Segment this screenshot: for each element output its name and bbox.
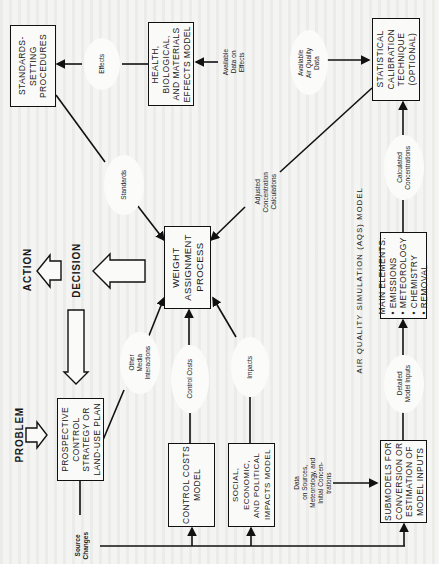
prospective-control-label: PROSPECTIVE CONTROL STRATEGY OR LAND-USE… bbox=[60, 403, 102, 476]
main-element-item: • CHEMISTRY bbox=[409, 237, 420, 314]
main-element-item: • METEOROLOGY bbox=[398, 237, 409, 314]
impacts-label: Impacts bbox=[246, 356, 254, 379]
action-label-box: ACTION bbox=[18, 245, 36, 295]
main-elements-heading: MAIN ELEMENTS: bbox=[377, 237, 388, 314]
available-data-effects-label-box: Available Data on Effects bbox=[214, 35, 254, 90]
data-on-sources-label: Data on Sources, Meteorology, and Initia… bbox=[293, 458, 333, 508]
calculated-concentrations-bubble: Calculated Concentrations bbox=[384, 135, 424, 200]
diagram-title-box: AIR QUALITY SIMULATION (AQS) MODEL bbox=[350, 180, 368, 380]
available-air-quality-label: Available Air Quality Data bbox=[297, 48, 321, 78]
control-costs-bubble: Control Costs bbox=[171, 345, 209, 413]
other-media-label: Other Media Interactions bbox=[128, 346, 152, 380]
standards-label: Standards bbox=[120, 170, 128, 200]
problem-label: PROBLEM bbox=[14, 407, 25, 463]
control-costs-box: CONTROL COSTS MODEL bbox=[168, 443, 215, 527]
main-element-item: • EMISSIONS bbox=[388, 237, 399, 314]
standards-bubble: Standards bbox=[104, 155, 144, 215]
impacts-bubble: Impacts bbox=[231, 337, 269, 397]
action-label: ACTION bbox=[22, 248, 33, 291]
detailed-model-inputs-bubble: Detailed Model Inputs bbox=[384, 355, 424, 413]
effects-label: Effects bbox=[98, 54, 106, 74]
standards-setting-box: STANDARDS- SETTING PROCEDURES bbox=[10, 25, 56, 107]
adjusted-concentration-label-box: Adjusted Concentration Calculations bbox=[246, 165, 286, 220]
other-media-bubble: Other Media Interactions bbox=[120, 332, 160, 394]
calculated-concentrations-label: Calculated Concentrations bbox=[396, 146, 412, 190]
adjusted-concentration-label: Adjusted Concentration Calculations bbox=[254, 172, 278, 212]
statistical-calibration-box: STATISTICAL CALIBRATION TECHNIQUE (Optio… bbox=[372, 18, 420, 101]
main-element-item: • REMOVAL bbox=[419, 237, 430, 314]
detailed-model-inputs-label: Detailed Model Inputs bbox=[396, 365, 412, 402]
social-impacts-label: SOCIAL, ECONOMIC, AND POLITICAL IMPACTS … bbox=[231, 444, 273, 526]
weight-assignment-label: WEIGHT ASSIGNMENT PROCESS bbox=[170, 234, 206, 301]
effects-bubble: Effects bbox=[84, 38, 120, 90]
main-elements-box: MAIN ELEMENTS: • EMISSIONS • METEOROLOGY… bbox=[380, 232, 427, 319]
data-on-sources-label-box: Data on Sources, Meteorology, and Initia… bbox=[290, 450, 335, 515]
main-elements-content: MAIN ELEMENTS: • EMISSIONS • METEOROLOGY… bbox=[377, 237, 430, 314]
social-impacts-box: SOCIAL, ECONOMIC, AND POLITICAL IMPACTS … bbox=[228, 443, 275, 527]
source-changes-label: Source Changes bbox=[74, 532, 90, 559]
diagram-title: AIR QUALITY SIMULATION (AQS) MODEL bbox=[355, 187, 364, 373]
available-air-quality-bubble: Available Air Quality Data bbox=[290, 30, 328, 95]
submodels-label: SUBMODELS FOR CONVERSION OR ESTIMATION O… bbox=[383, 442, 425, 521]
source-changes-label-box: Source Changes bbox=[70, 530, 94, 562]
weight-assignment-box: WEIGHT ASSIGNMENT PROCESS bbox=[164, 226, 211, 309]
statistical-calibration-label: STATISTICAL CALIBRATION TECHNIQUE (Optio… bbox=[375, 29, 417, 89]
health-effects-label: HEALTH, BIOLOGICAL, AND MATERIALS EFFECT… bbox=[150, 26, 192, 103]
control-costs-label: CONTROL COSTS MODEL bbox=[181, 446, 202, 524]
problem-label-box: PROBLEM bbox=[10, 400, 28, 470]
submodels-box: SUBMODELS FOR CONVERSION OR ESTIMATION O… bbox=[380, 440, 427, 523]
control-costs-flow-label: Control Costs bbox=[186, 359, 194, 398]
prospective-control-box: PROSPECTIVE CONTROL STRATEGY OR LAND-USE… bbox=[57, 398, 104, 481]
health-effects-box: HEALTH, BIOLOGICAL, AND MATERIALS EFFECT… bbox=[148, 22, 194, 106]
available-data-effects-label: Available Data on Effects bbox=[222, 49, 246, 75]
standards-setting-label: STANDARDS- SETTING PROCEDURES bbox=[17, 34, 49, 98]
decision-label: DECISION bbox=[71, 243, 82, 298]
decision-label-box: DECISION bbox=[67, 240, 85, 300]
